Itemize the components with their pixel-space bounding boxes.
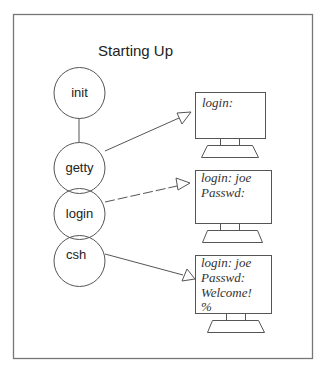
terminal-2-neck	[221, 224, 240, 231]
terminal-1-line: login:	[202, 95, 233, 110]
terminal-3-base	[208, 321, 265, 333]
process-getty-label: getty	[65, 160, 94, 175]
process-csh-label: csh	[66, 247, 86, 262]
terminal-3-line: login: joe	[201, 255, 251, 270]
arrow-csh-terminal-3	[105, 254, 195, 281]
process-login-label: login	[66, 206, 93, 221]
terminal-2: login: joe Passwd:	[196, 170, 272, 243]
process-init-label: init	[71, 85, 88, 100]
arrow-login-terminal-2	[105, 178, 190, 202]
terminal-2-line: login: joe	[201, 170, 251, 185]
terminal-1-neck	[221, 139, 240, 146]
process-getty: getty	[54, 143, 105, 194]
terminal-2-line: Passwd:	[200, 185, 245, 200]
arrowhead-icon	[177, 112, 191, 124]
diagram-frame	[14, 15, 313, 359]
process-csh: csh	[54, 236, 105, 287]
terminal-3-line: Passwd:	[200, 270, 245, 285]
arrowhead-icon	[176, 178, 190, 190]
diagram-canvas: Starting Up init getty login csh login:	[0, 0, 324, 372]
process-login: login	[54, 189, 105, 240]
diagram-title: Starting Up	[98, 42, 173, 59]
terminal-1: login:	[196, 93, 266, 158]
process-init: init	[54, 68, 105, 119]
arrow-getty-terminal-1	[105, 112, 191, 151]
terminal-3-line: %	[201, 299, 212, 314]
terminal-2-base	[203, 231, 263, 243]
terminal-3-line: Welcome!	[201, 285, 252, 300]
arrowhead-icon	[182, 269, 195, 281]
terminal-3-neck	[227, 314, 246, 321]
terminal-3: login: joe Passwd: Welcome! %	[196, 255, 272, 333]
terminal-1-base	[202, 146, 259, 158]
